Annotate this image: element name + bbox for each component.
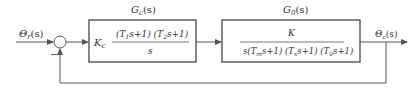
- plant-numerator: K: [287, 28, 296, 38]
- block-diagram: Θr(s) − Gc(s) Kc (T1s+1) (T2s+1) s G0(s)…: [0, 0, 420, 89]
- controller-block: [89, 20, 196, 62]
- input-label: Θr(s): [19, 28, 44, 41]
- controller-title: Gc(s): [131, 4, 156, 17]
- output-label: Θc(s): [375, 29, 397, 40]
- summing-junction: [54, 36, 66, 48]
- plant-title: G0(s): [283, 4, 309, 17]
- controller-denominator: s: [148, 46, 153, 56]
- feedback-minus-sign: −: [50, 49, 58, 60]
